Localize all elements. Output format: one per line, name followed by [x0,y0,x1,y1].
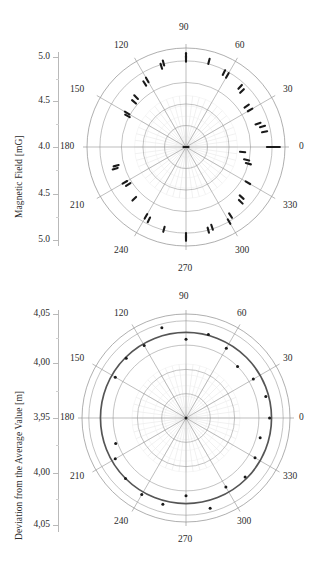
angle-label-top-0: 0 [299,141,304,151]
angle-label-top-30: 30 [283,84,293,94]
angle-label-top-300: 300 [235,245,249,255]
angle-label-bottom-90: 90 [179,291,189,301]
polar-plot-deviation: Deviation from the Average Value [m] 4,0… [0,285,328,569]
angle-label-bottom-300: 300 [237,516,251,526]
angle-label-bottom-150: 150 [70,353,84,363]
figure-two-polar-plots: Magnetic Field [mG] 5.0 4.5 4.0 4.5 5.0 … [0,0,328,569]
angle-label-top-240: 240 [114,245,128,255]
angle-label-top-90: 90 [179,22,189,32]
angle-label-bottom-0: 0 [299,412,304,422]
angle-label-top-270: 270 [178,263,192,273]
angle-label-top-150: 150 [70,84,84,94]
angle-label-bottom-210: 210 [70,471,84,481]
angle-label-bottom-270: 270 [178,534,192,544]
angle-label-top-60: 60 [235,40,245,50]
angle-label-top-210: 210 [70,200,84,210]
angle-label-top-330: 330 [283,200,297,210]
angle-label-bottom-330: 330 [283,471,297,481]
angle-label-bottom-180: 180 [60,412,74,422]
angle-label-top-120: 120 [114,40,128,50]
angle-label-bottom-120: 120 [114,308,128,318]
polar-canvas-top [0,0,328,284]
angle-label-bottom-30: 30 [283,353,293,363]
angle-label-top-180: 180 [60,141,74,151]
angle-label-bottom-240: 240 [114,516,128,526]
polar-canvas-bottom [0,285,328,569]
polar-plot-magnetic-field: Magnetic Field [mG] 5.0 4.5 4.0 4.5 5.0 … [0,0,328,284]
angle-label-bottom-60: 60 [237,308,247,318]
